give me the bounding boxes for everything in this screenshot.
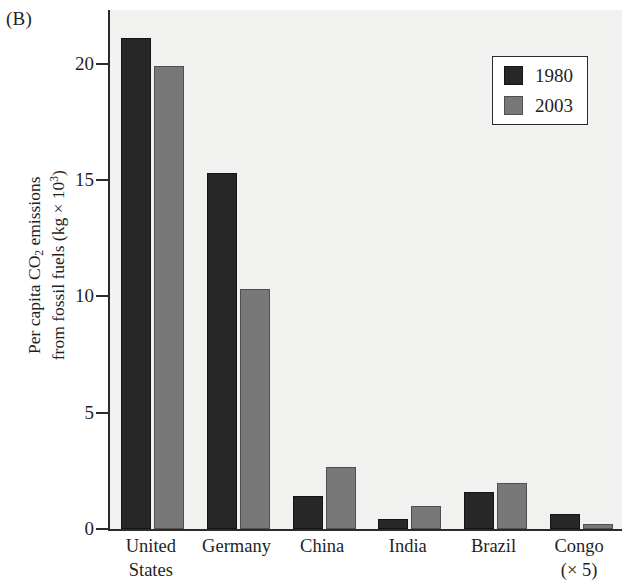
bar-china-2003 bbox=[326, 467, 356, 529]
y-axis-tick-label: 20 bbox=[50, 53, 94, 75]
bar-congo-1980 bbox=[550, 514, 580, 529]
legend-swatch-icon bbox=[504, 66, 523, 85]
x-axis-tick-label: China bbox=[300, 535, 344, 559]
bar-germany-1980 bbox=[207, 173, 237, 529]
bar-congo-2003 bbox=[583, 524, 613, 529]
x-axis-tick-label-line-1: Congo bbox=[554, 536, 603, 556]
bar-germany-2003 bbox=[240, 289, 270, 529]
x-axis-tick-label-line-1: India bbox=[389, 536, 427, 556]
bar-china-1980 bbox=[293, 496, 323, 529]
bar-brazil-2003 bbox=[497, 483, 527, 529]
x-axis-tick-label: UnitedStates bbox=[126, 535, 176, 582]
y-axis-tick-labels: 05101520 bbox=[42, 0, 94, 584]
bar-brazil-1980 bbox=[464, 492, 494, 529]
legend-label: 1980 bbox=[535, 66, 573, 85]
x-axis-tick-label: India bbox=[389, 535, 427, 559]
legend-item-2003: 2003 bbox=[504, 96, 573, 115]
x-axis-tick-label-line-1: China bbox=[300, 536, 344, 556]
y-axis-tick-label: 10 bbox=[50, 285, 94, 307]
y-axis-tick-label: 5 bbox=[50, 402, 94, 424]
bar-india-1980 bbox=[378, 519, 408, 529]
x-axis-tick-label-line-1: Brazil bbox=[471, 536, 516, 556]
y-axis-title-l1-pre: Per capita CO bbox=[24, 256, 44, 354]
legend-swatch-icon bbox=[504, 96, 523, 115]
bar-unitedstates-2003 bbox=[154, 66, 184, 529]
x-axis-tick-label-line-1: Germany bbox=[202, 536, 271, 556]
legend-label: 2003 bbox=[535, 96, 573, 115]
y-axis-title-l1-post: emissions bbox=[24, 176, 44, 249]
chart-legend: 19802003 bbox=[492, 56, 588, 125]
y-axis-tick-label: 15 bbox=[50, 169, 94, 191]
x-axis-tick-label-line-2: (× 5) bbox=[554, 559, 603, 583]
x-axis-tick-label-line-2: States bbox=[126, 559, 176, 583]
legend-item-1980: 1980 bbox=[504, 66, 573, 85]
bar-india-2003 bbox=[411, 506, 441, 529]
bar-unitedstates-1980 bbox=[121, 38, 151, 529]
x-axis-tick-label: Germany bbox=[202, 535, 271, 559]
x-axis-tick-label: Brazil bbox=[471, 535, 516, 559]
y-axis-tick-label: 0 bbox=[50, 518, 94, 540]
x-axis-tick-labels: UnitedStatesGermanyChinaIndiaBrazilCongo… bbox=[108, 535, 622, 584]
x-axis-tick-label: Congo(× 5) bbox=[554, 535, 603, 582]
x-axis-tick-label-line-1: United bbox=[126, 536, 176, 556]
